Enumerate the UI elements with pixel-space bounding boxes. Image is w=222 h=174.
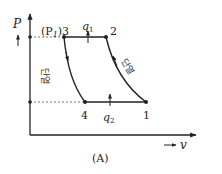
point-4-label: 4 <box>81 110 88 121</box>
adiabatic-label-left: 단열 <box>39 68 52 84</box>
point-2-label: 2 <box>110 26 117 37</box>
state-point-4 <box>83 100 87 104</box>
state-point-1 <box>144 100 148 104</box>
y-axis-dot-p2 <box>28 100 32 104</box>
q2-label: q2 <box>103 112 115 123</box>
process-3-4 <box>64 37 85 102</box>
q2-text: q <box>103 111 110 124</box>
figure-caption: (A) <box>92 153 109 164</box>
y-axis-dot-p1 <box>28 35 32 39</box>
q2-subscript: 2 <box>110 117 114 125</box>
x-axis-label: v <box>180 139 187 151</box>
y-axis-label: P <box>13 18 21 30</box>
point-3-label: (P1)3 <box>41 26 69 37</box>
p1-open: (P <box>41 25 53 38</box>
q1-subscript: 1 <box>89 26 93 34</box>
state-point-2 <box>104 35 108 39</box>
point-1-label: 1 <box>143 110 150 121</box>
q1-label: q1 <box>82 21 94 32</box>
p1-close: )3 <box>58 25 69 38</box>
q1-text: q <box>82 20 89 33</box>
p1-subscript: 1 <box>53 30 58 39</box>
